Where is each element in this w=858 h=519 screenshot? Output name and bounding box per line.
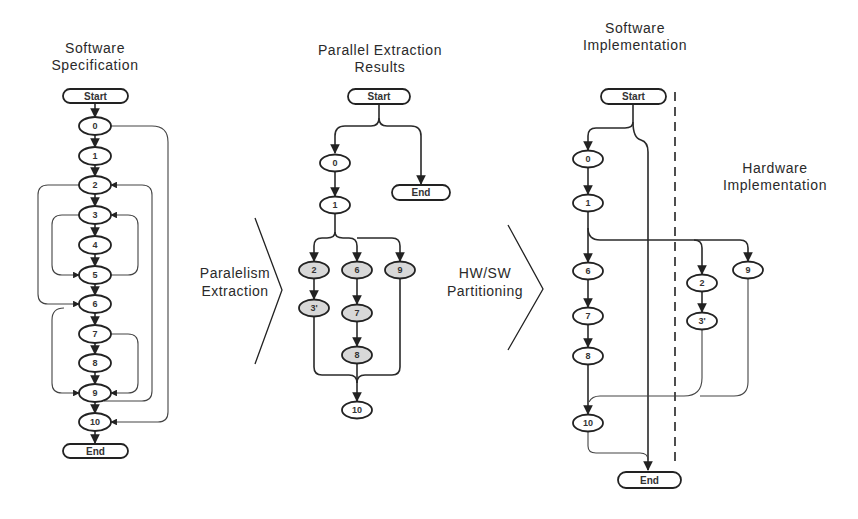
svg-text:Start: Start [84,91,107,102]
svg-text:10: 10 [352,405,362,415]
hw-node-9: 9 [733,262,763,279]
sw-node-10: 10 [573,415,603,432]
sw-node-0: 0 [573,151,603,168]
spec-node-5: 5 [79,266,111,284]
svg-text:5: 5 [92,270,97,280]
spec-node-8: 8 [79,354,111,372]
pe-node-7: 7 [342,305,372,322]
hw-node-3-prime: 3' [687,313,717,330]
spec-node-4: 4 [79,236,111,254]
software-specification-graph: Start End 0 1 2 3 4 5 6 7 8 9 10 [38,89,168,458]
svg-text:8: 8 [585,351,590,361]
flow-diagram: Start End 0 1 2 3 4 5 6 7 8 9 10 [0,0,858,519]
spec-node-6: 6 [79,295,111,313]
svg-text:7: 7 [585,311,590,321]
spec-node-3: 3 [79,206,111,224]
svg-text:8: 8 [92,358,97,368]
svg-text:0: 0 [92,121,97,131]
pe-node-6: 6 [342,262,372,279]
spec-node-10: 10 [79,413,111,431]
sw-node-7: 7 [573,308,603,325]
spec-node-0: 0 [79,117,111,135]
svg-text:8: 8 [354,350,359,360]
svg-text:6: 6 [585,266,590,276]
svg-text:6: 6 [92,299,97,309]
svg-text:Start: Start [368,91,391,102]
svg-text:1: 1 [585,198,590,208]
parallel-extraction-graph: Start End 0 1 2 3' 6 7 8 9 10 [299,89,450,419]
svg-text:0: 0 [332,158,337,168]
hw-node-2: 2 [687,275,717,292]
svg-text:Start: Start [622,91,645,102]
svg-text:0: 0 [585,154,590,164]
svg-text:3: 3 [92,210,97,220]
pe-node-1: 1 [320,197,350,214]
sw-node-6: 6 [573,263,603,280]
svg-text:1: 1 [92,151,97,161]
spec-node-7: 7 [79,325,111,343]
svg-text:2: 2 [311,265,316,275]
svg-text:4: 4 [92,240,97,250]
svg-text:3': 3' [698,316,705,326]
chevron-arrow-1 [255,218,282,364]
svg-text:End: End [86,446,105,457]
svg-text:6: 6 [354,265,359,275]
sw-node-8: 8 [573,348,603,365]
implementation-graph: Start End 0 1 6 7 8 10 2 3' 9 [573,89,763,488]
svg-text:7: 7 [354,308,359,318]
spec-node-9: 9 [79,384,111,402]
spec-node-2: 2 [79,176,111,194]
svg-text:10: 10 [90,417,100,427]
svg-text:End: End [640,475,659,486]
sw-node-1: 1 [573,195,603,212]
chevron-arrow-2 [508,225,543,350]
svg-text:7: 7 [92,329,97,339]
svg-text:End: End [412,187,431,198]
svg-text:2: 2 [699,278,704,288]
svg-text:2: 2 [92,180,97,190]
svg-text:3': 3' [310,303,317,313]
pe-node-10: 10 [342,402,372,419]
svg-text:10: 10 [583,418,593,428]
svg-text:9: 9 [92,388,97,398]
pe-node-2: 2 [299,262,329,279]
svg-text:9: 9 [745,265,750,275]
pe-node-9: 9 [385,262,415,279]
pe-node-0: 0 [320,155,350,172]
pe-node-3-prime: 3' [299,300,329,317]
svg-text:9: 9 [397,265,402,275]
svg-text:1: 1 [332,200,337,210]
spec-node-1: 1 [79,147,111,165]
pe-node-8: 8 [342,347,372,364]
